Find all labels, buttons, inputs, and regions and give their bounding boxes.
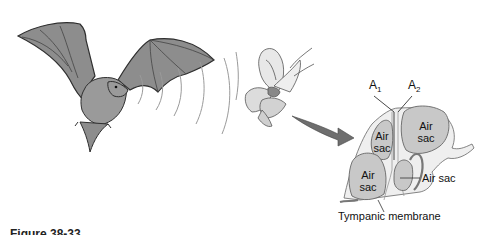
tympanic-organ-diagram [340,96,474,212]
receptor-label-a1: A1 [369,78,381,94]
air-sac-label-upper-left: Airsac [372,130,392,154]
pointer-arrow [292,116,354,146]
illustration-svg [0,0,478,235]
receptor-label-a2: A2 [408,78,420,94]
figure-canvas: A1 A2 Airsac Airsac Airsac Air sac Tympa… [0,0,478,235]
tympanic-membrane-label: Tympanic membrane [338,210,441,222]
bat-illustration [18,23,214,152]
air-sac-label-lower-left: Airsac [356,169,380,193]
air-sac-label-upper-right: Airsac [414,120,438,144]
air-sac-lower-right [394,160,413,191]
moth-illustration [245,48,314,127]
air-sac-callout-label: Air sac [422,172,456,184]
figure-caption: Figure 38-33 [10,227,81,235]
